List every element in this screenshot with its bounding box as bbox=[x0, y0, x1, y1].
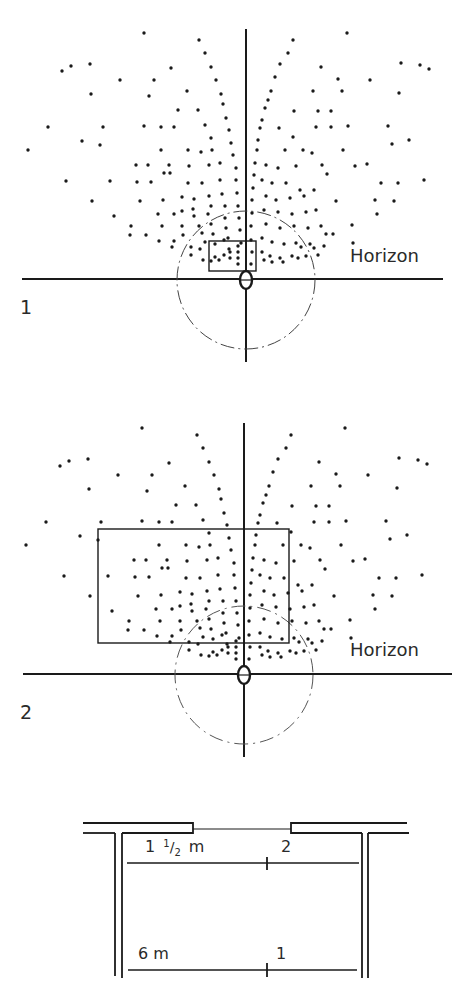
field-dot bbox=[180, 195, 183, 198]
field-dot bbox=[250, 198, 253, 201]
field-dot bbox=[144, 233, 147, 236]
field-dot bbox=[260, 236, 263, 239]
field-dot bbox=[222, 621, 225, 624]
field-dot bbox=[157, 543, 160, 546]
field-dot bbox=[198, 247, 201, 250]
field-dot bbox=[189, 245, 192, 248]
field-dot bbox=[129, 224, 132, 227]
field-dot bbox=[60, 69, 63, 72]
field-dot bbox=[217, 258, 220, 261]
field-dot bbox=[304, 254, 307, 257]
field-dot bbox=[135, 180, 138, 183]
field-dot bbox=[207, 599, 210, 602]
field-dot bbox=[88, 62, 91, 65]
room-plan-view bbox=[83, 823, 409, 978]
field-dot bbox=[280, 637, 283, 640]
field-dot bbox=[312, 246, 315, 249]
figure-2-dot-field bbox=[24, 426, 428, 660]
field-dot bbox=[249, 224, 252, 227]
field-dot bbox=[157, 520, 160, 523]
field-dot bbox=[390, 142, 393, 145]
field-dot bbox=[262, 558, 265, 561]
field-dot bbox=[207, 531, 210, 534]
perspective-diagram: Horizon 1 Horizon 2 bbox=[0, 0, 474, 1008]
field-dot bbox=[187, 648, 190, 651]
field-dot bbox=[427, 67, 430, 70]
field-dot bbox=[223, 216, 226, 219]
field-dot bbox=[172, 212, 175, 215]
field-dot bbox=[392, 199, 395, 202]
field-dot bbox=[234, 166, 237, 169]
field-dot bbox=[264, 493, 267, 496]
field-dot bbox=[64, 179, 67, 182]
field-dot bbox=[110, 609, 113, 612]
field-dot bbox=[146, 163, 149, 166]
field-dot bbox=[320, 163, 323, 166]
field-dot bbox=[220, 648, 223, 651]
field-dot bbox=[237, 216, 240, 219]
field-dot bbox=[348, 618, 351, 621]
field-dot bbox=[170, 634, 173, 637]
field-dot bbox=[159, 125, 162, 128]
field-dot bbox=[248, 593, 251, 596]
figure-1-dot-field bbox=[26, 31, 430, 265]
field-dot bbox=[268, 635, 271, 638]
field-dot bbox=[108, 179, 111, 182]
field-dot bbox=[261, 501, 264, 504]
figure-2-field-of-view: Horizon 2 bbox=[20, 423, 452, 757]
field-dot bbox=[267, 484, 270, 487]
field-dot bbox=[327, 504, 330, 507]
field-dot bbox=[213, 242, 216, 245]
field-dot bbox=[215, 653, 218, 656]
field-dot bbox=[312, 520, 315, 523]
field-dot bbox=[191, 207, 194, 210]
field-dot bbox=[274, 561, 277, 564]
field-dot bbox=[90, 199, 93, 202]
field-dot bbox=[302, 194, 305, 197]
field-dot bbox=[336, 77, 339, 80]
field-dot bbox=[281, 543, 284, 546]
field-dot bbox=[221, 599, 224, 602]
field-dot bbox=[203, 123, 206, 126]
field-dot bbox=[395, 486, 398, 489]
field-dot bbox=[133, 575, 136, 578]
field-dot bbox=[190, 592, 193, 595]
field-dot bbox=[170, 520, 173, 523]
field-dot bbox=[46, 125, 49, 128]
field-dot bbox=[268, 655, 271, 658]
field-dot bbox=[338, 484, 341, 487]
field-dot bbox=[235, 191, 238, 194]
field-dot bbox=[278, 256, 281, 259]
field-dot bbox=[200, 231, 203, 234]
field-dot bbox=[101, 125, 104, 128]
field-dot bbox=[172, 239, 175, 242]
field-dot bbox=[169, 66, 172, 69]
field-dot bbox=[299, 543, 302, 546]
field-dot bbox=[247, 633, 250, 636]
field-dot bbox=[248, 645, 251, 648]
field-dot bbox=[226, 236, 229, 239]
field-dot bbox=[222, 511, 225, 514]
field-dot bbox=[273, 75, 276, 78]
field-dot bbox=[308, 242, 311, 245]
field-dot bbox=[185, 559, 188, 562]
field-dot bbox=[247, 657, 250, 660]
field-dot bbox=[317, 460, 320, 463]
field-dot bbox=[251, 556, 254, 559]
field-dot bbox=[227, 128, 230, 131]
field-dot bbox=[158, 619, 161, 622]
field-dot bbox=[211, 637, 214, 640]
field-dot bbox=[262, 208, 265, 211]
field-dot bbox=[209, 259, 212, 262]
field-dot bbox=[44, 520, 47, 523]
field-dot bbox=[136, 594, 139, 597]
field-dot bbox=[350, 223, 353, 226]
field-dot bbox=[184, 543, 187, 546]
field-dot bbox=[329, 627, 332, 630]
field-dot bbox=[209, 222, 212, 225]
field-dot bbox=[144, 558, 147, 561]
field-dot bbox=[250, 250, 253, 253]
field-dot bbox=[227, 536, 230, 539]
plan-position-far-label: 1 bbox=[276, 944, 286, 963]
field-dot bbox=[316, 109, 319, 112]
